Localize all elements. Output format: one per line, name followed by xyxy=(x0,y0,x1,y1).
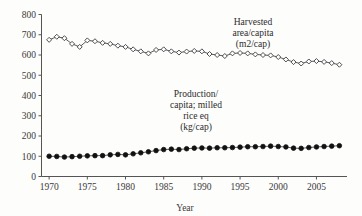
x-tick-label: 1985 xyxy=(154,182,173,192)
data-point-filled-circle xyxy=(154,148,159,153)
data-point-open-diamond xyxy=(268,53,273,58)
data-point-open-diamond xyxy=(276,55,281,60)
data-point-filled-circle xyxy=(337,143,342,148)
data-point-filled-circle xyxy=(223,145,228,150)
y-tick-label: 800 xyxy=(22,10,37,20)
data-point-filled-circle xyxy=(116,152,121,157)
series-harvested-area-markers xyxy=(47,34,342,67)
production-capita-annotation-line: rice eq xyxy=(183,111,209,121)
data-point-open-diamond xyxy=(306,59,311,64)
data-point-open-diamond xyxy=(138,49,143,54)
data-point-open-diamond xyxy=(314,59,319,64)
data-point-filled-circle xyxy=(245,144,250,149)
chart-figure: 0100200300400500600700800 19701975198019… xyxy=(0,0,362,216)
data-point-filled-circle xyxy=(268,144,273,149)
production-capita-annotation: Production/capita; milledrice eq(kg/cap) xyxy=(170,89,222,133)
data-point-open-diamond xyxy=(215,53,220,58)
data-point-open-diamond xyxy=(108,41,113,46)
y-tick-label: 300 xyxy=(22,111,37,121)
x-axis-tick-labels: 19701975198019851990199520002005 xyxy=(40,182,327,192)
data-point-filled-circle xyxy=(123,153,128,158)
data-point-open-diamond xyxy=(154,47,159,52)
data-point-filled-circle xyxy=(85,154,90,159)
data-point-filled-circle xyxy=(93,153,98,158)
data-point-filled-circle xyxy=(230,145,235,150)
data-point-open-diamond xyxy=(260,53,265,58)
production-capita-annotation-line: Production/ xyxy=(174,89,219,99)
data-point-filled-circle xyxy=(200,146,205,151)
data-point-open-diamond xyxy=(184,49,189,54)
x-tick-label: 2000 xyxy=(269,182,288,192)
x-tick-label: 1990 xyxy=(192,182,211,192)
data-point-filled-circle xyxy=(54,154,59,159)
data-point-filled-circle xyxy=(314,145,319,150)
data-point-filled-circle xyxy=(146,149,151,154)
data-point-open-diamond xyxy=(230,51,235,56)
data-point-open-diamond xyxy=(222,54,227,59)
data-point-open-diamond xyxy=(238,50,243,55)
y-tick-label: 0 xyxy=(31,172,36,182)
data-point-open-diamond xyxy=(47,37,52,42)
data-point-filled-circle xyxy=(276,144,281,149)
data-point-open-diamond xyxy=(54,34,59,39)
y-tick-label: 100 xyxy=(22,152,37,162)
data-point-open-diamond xyxy=(329,61,334,66)
data-point-filled-circle xyxy=(261,144,266,149)
data-point-filled-circle xyxy=(77,154,82,159)
x-tick-label: 1995 xyxy=(231,182,250,192)
x-tick-label: 1975 xyxy=(78,182,97,192)
data-point-open-diamond xyxy=(176,50,181,55)
data-point-filled-circle xyxy=(215,145,220,150)
data-point-filled-circle xyxy=(161,147,166,152)
data-point-open-diamond xyxy=(131,47,136,52)
data-point-open-diamond xyxy=(169,49,174,54)
data-point-filled-circle xyxy=(307,145,312,150)
data-point-filled-circle xyxy=(299,146,304,151)
data-point-filled-circle xyxy=(329,144,334,149)
x-axis-title: Year xyxy=(176,203,194,213)
data-point-open-diamond xyxy=(337,62,342,67)
data-point-open-diamond xyxy=(115,43,120,48)
data-point-open-diamond xyxy=(253,52,258,57)
x-tick-label: 2005 xyxy=(307,182,326,192)
data-point-open-diamond xyxy=(161,47,166,52)
data-point-open-diamond xyxy=(291,60,296,65)
y-tick-label: 200 xyxy=(22,131,37,141)
chart-plot-area: 0100200300400500600700800 19701975198019… xyxy=(0,0,362,216)
data-point-filled-circle xyxy=(131,152,136,157)
y-tick-label: 400 xyxy=(22,91,37,101)
data-point-open-diamond xyxy=(192,48,197,53)
harvested-area-annotation: Harvestedarea/capita(m2/cap) xyxy=(232,17,274,50)
data-point-open-diamond xyxy=(283,57,288,62)
data-point-filled-circle xyxy=(70,154,75,159)
data-point-filled-circle xyxy=(238,145,243,150)
data-point-filled-circle xyxy=(138,151,143,156)
x-tick-label: 1980 xyxy=(116,182,135,192)
y-tick-label: 600 xyxy=(22,50,37,60)
data-point-filled-circle xyxy=(169,147,174,152)
harvested-area-annotation-line: Harvested xyxy=(234,17,273,27)
data-point-open-diamond xyxy=(199,49,204,54)
data-point-filled-circle xyxy=(253,144,258,149)
harvested-area-annotation-line: (m2/cap) xyxy=(236,39,270,50)
data-point-filled-circle xyxy=(291,146,296,151)
data-point-open-diamond xyxy=(92,39,97,44)
data-point-filled-circle xyxy=(207,146,212,151)
data-point-open-diamond xyxy=(245,51,250,56)
production-capita-annotation-line: (kg/cap) xyxy=(180,122,212,133)
data-point-open-diamond xyxy=(100,40,105,45)
y-tick-label: 700 xyxy=(22,30,37,40)
data-point-open-diamond xyxy=(146,51,151,56)
harvested-area-annotation-line: area/capita xyxy=(232,28,274,38)
data-point-open-diamond xyxy=(299,61,304,66)
data-point-filled-circle xyxy=(108,153,113,158)
data-point-filled-circle xyxy=(47,154,52,159)
data-point-filled-circle xyxy=(192,146,197,151)
data-point-filled-circle xyxy=(322,144,327,149)
series-production-capita-markers xyxy=(47,143,342,159)
y-axis-tick-labels: 0100200300400500600700800 xyxy=(22,10,37,182)
data-point-filled-circle xyxy=(284,145,289,150)
data-point-filled-circle xyxy=(100,153,105,158)
data-point-open-diamond xyxy=(322,59,327,64)
data-point-filled-circle xyxy=(177,147,182,152)
